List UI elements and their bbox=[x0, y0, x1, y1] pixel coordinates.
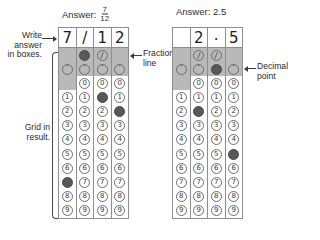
digit-bubble-6[interactable]: 6 bbox=[176, 163, 187, 174]
digit-cell-9[interactable]: 9 bbox=[226, 204, 243, 218]
fraction-line-cell[interactable] bbox=[173, 48, 190, 62]
digit-cell-4[interactable]: 4 bbox=[112, 133, 129, 147]
digit-cell-2[interactable]: 2 bbox=[173, 105, 190, 119]
digit-cell-4[interactable]: 4 bbox=[94, 133, 111, 147]
digit-cell-5[interactable]: 5 bbox=[94, 147, 111, 161]
digit-cell-9[interactable]: 9 bbox=[191, 204, 208, 218]
digit-bubble-0[interactable]: 0 bbox=[193, 78, 204, 89]
digit-cell-4[interactable]: 4 bbox=[208, 133, 225, 147]
fraction-line-cell[interactable] bbox=[208, 48, 225, 62]
decimal-point-cell[interactable]: · bbox=[59, 62, 76, 76]
decimal-point-bubble[interactable]: · bbox=[193, 64, 204, 75]
digit-bubble-6[interactable]: 6 bbox=[193, 163, 204, 174]
digit-cell-8[interactable]: 8 bbox=[77, 190, 94, 204]
digit-bubble-1-filled[interactable]: 1 bbox=[97, 92, 108, 103]
digit-bubble-8[interactable]: 8 bbox=[193, 191, 204, 202]
digit-cell-0[interactable]: 0 bbox=[94, 76, 111, 90]
digit-bubble-0[interactable]: 0 bbox=[211, 78, 222, 89]
write-cell-4[interactable]: 5 bbox=[226, 28, 243, 47]
digit-cell-1[interactable]: 1 bbox=[94, 90, 111, 104]
digit-cell-3[interactable]: 3 bbox=[173, 119, 190, 133]
write-cell-1[interactable] bbox=[173, 28, 191, 47]
bubble-column-4[interactable]: ·0123456789 bbox=[112, 48, 129, 218]
bubble-column-1[interactable]: ·123456789 bbox=[59, 48, 77, 218]
digit-bubble-4[interactable]: 4 bbox=[193, 134, 204, 145]
digit-cell-9[interactable]: 9 bbox=[59, 204, 76, 218]
digit-cell-2[interactable]: 2 bbox=[208, 105, 225, 119]
digit-bubble-5[interactable]: 5 bbox=[79, 149, 90, 160]
digit-cell-7[interactable]: 7 bbox=[173, 175, 190, 189]
fraction-slash-bubble[interactable] bbox=[193, 50, 204, 61]
digit-cell-9[interactable]: 9 bbox=[94, 204, 111, 218]
digit-cell-3[interactable]: 3 bbox=[112, 119, 129, 133]
fraction-line-cell[interactable] bbox=[77, 48, 94, 62]
digit-cell-2[interactable]: 2 bbox=[94, 105, 111, 119]
bubble-column-2[interactable]: ·0123456789 bbox=[77, 48, 95, 218]
write-answer-row-fraction[interactable]: 7 / 1 2 bbox=[59, 28, 128, 48]
digit-cell-7[interactable]: 7 bbox=[59, 175, 76, 189]
digit-cell-6[interactable]: 6 bbox=[208, 161, 225, 175]
decimal-point-cell[interactable]: · bbox=[226, 62, 243, 76]
digit-bubble-7[interactable]: 7 bbox=[114, 177, 125, 188]
digit-bubble-2[interactable]: 2 bbox=[97, 106, 108, 117]
digit-cell-6[interactable]: 6 bbox=[112, 161, 129, 175]
digit-bubble-4[interactable]: 4 bbox=[62, 134, 73, 145]
digit-cell-7[interactable]: 7 bbox=[208, 175, 225, 189]
digit-bubble-5[interactable]: 5 bbox=[193, 149, 204, 160]
digit-bubble-8[interactable]: 8 bbox=[79, 191, 90, 202]
digit-bubble-0[interactable]: 0 bbox=[79, 78, 90, 89]
digit-bubble-2[interactable]: 2 bbox=[228, 106, 239, 117]
digit-bubble-9[interactable]: 9 bbox=[211, 205, 222, 216]
digit-cell-9[interactable]: 9 bbox=[112, 204, 129, 218]
digit-cell-6[interactable]: 6 bbox=[94, 161, 111, 175]
bubble-column-3[interactable]: ·0123456789 bbox=[94, 48, 112, 218]
digit-bubble-6[interactable]: 6 bbox=[62, 163, 73, 174]
digit-cell-8[interactable]: 8 bbox=[112, 190, 129, 204]
decimal-point-cell[interactable]: · bbox=[94, 62, 111, 76]
digit-cell-0[interactable] bbox=[173, 76, 190, 90]
bubble-column-1[interactable]: ·123456789 bbox=[173, 48, 191, 218]
write-cell-1[interactable]: 7 bbox=[59, 28, 77, 47]
digit-bubble-5[interactable]: 5 bbox=[211, 149, 222, 160]
bubble-column-3[interactable]: ·0123456789 bbox=[208, 48, 226, 218]
digit-cell-7[interactable]: 7 bbox=[112, 175, 129, 189]
digit-cell-8[interactable]: 8 bbox=[173, 190, 190, 204]
digit-bubble-5[interactable]: 5 bbox=[62, 149, 73, 160]
digit-bubble-4[interactable]: 4 bbox=[211, 134, 222, 145]
digit-cell-0[interactable]: 0 bbox=[226, 76, 243, 90]
digit-cell-5[interactable]: 5 bbox=[59, 147, 76, 161]
answer-grid-decimal[interactable]: 2 . 5 ·123456789·0123456789·0123456789·0… bbox=[172, 27, 243, 219]
digit-cell-1[interactable]: 1 bbox=[208, 90, 225, 104]
digit-bubble-6[interactable]: 6 bbox=[114, 163, 125, 174]
digit-bubble-5-filled[interactable]: 5 bbox=[228, 149, 239, 160]
fraction-line-cell[interactable] bbox=[94, 48, 111, 62]
digit-bubble-7-filled[interactable]: 7 bbox=[62, 177, 73, 188]
digit-bubble-8[interactable]: 8 bbox=[211, 191, 222, 202]
digit-bubble-6[interactable]: 6 bbox=[79, 163, 90, 174]
decimal-point-cell[interactable]: · bbox=[191, 62, 208, 76]
decimal-point-bubble[interactable]: · bbox=[79, 64, 90, 75]
digit-bubble-2[interactable]: 2 bbox=[79, 106, 90, 117]
fraction-line-cell[interactable] bbox=[112, 48, 129, 62]
digit-cell-6[interactable]: 6 bbox=[191, 161, 208, 175]
fraction-line-cell[interactable] bbox=[226, 48, 243, 62]
decimal-point-bubble[interactable]: · bbox=[114, 64, 125, 75]
digit-bubble-8[interactable]: 8 bbox=[97, 191, 108, 202]
digit-cell-4[interactable]: 4 bbox=[77, 133, 94, 147]
digit-bubble-7[interactable]: 7 bbox=[97, 177, 108, 188]
digit-bubble-9[interactable]: 9 bbox=[62, 205, 73, 216]
digit-bubble-7[interactable]: 7 bbox=[193, 177, 204, 188]
digit-bubble-5[interactable]: 5 bbox=[97, 149, 108, 160]
digit-bubble-7[interactable]: 7 bbox=[228, 177, 239, 188]
digit-bubble-6[interactable]: 6 bbox=[211, 163, 222, 174]
digit-cell-9[interactable]: 9 bbox=[77, 204, 94, 218]
digit-cell-8[interactable]: 8 bbox=[191, 190, 208, 204]
digit-bubble-1[interactable]: 1 bbox=[79, 92, 90, 103]
digit-cell-3[interactable]: 3 bbox=[59, 119, 76, 133]
digit-bubble-2[interactable]: 2 bbox=[176, 106, 187, 117]
write-cell-3[interactable]: 1 bbox=[94, 28, 112, 47]
digit-cell-5[interactable]: 5 bbox=[77, 147, 94, 161]
digit-cell-2[interactable]: 2 bbox=[112, 105, 129, 119]
digit-cell-1[interactable]: 1 bbox=[59, 90, 76, 104]
digit-bubble-2-filled[interactable]: 2 bbox=[114, 106, 125, 117]
